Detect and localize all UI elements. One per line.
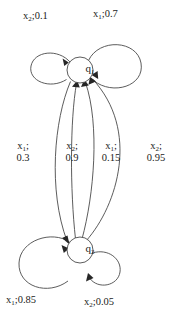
self-loop-q1-right-path (89, 45, 142, 88)
self-loop-label-q1-right: x1;0.7 (93, 8, 118, 19)
transition-label-q2-to-q1-x2-095-line1: x2; (139, 140, 173, 152)
self-loop-label-q1-right-probability: 0.7 (105, 8, 118, 19)
self-loop-label-q2-right-probability: 0.05 (96, 296, 114, 307)
transition-label-q2-to-q1-x1-015: x1; 0.15 (95, 140, 127, 164)
transition-label-q2-to-q1-x2-095: x2; 0.95 (139, 140, 173, 164)
transition-label-q2-to-q1-x1-015-subscript: 1 (110, 145, 114, 153)
transition-label-q2-to-q1-x2-09-probability: 0.9 (57, 152, 87, 164)
self-loop-label-q1-left: x2;0.1 (23, 10, 48, 21)
self-loop-q2-right-arrowhead (86, 273, 94, 282)
transition-label-q2-to-q1-x1-015-probability: 0.15 (95, 152, 127, 164)
self-loop-label-q1-right-subscript: 1 (98, 13, 102, 21)
state-node-q2[interactable] (67, 237, 93, 263)
transition-label-q1-to-q2-x1-separator: ; (26, 140, 29, 151)
transition-label-q2-to-q1-x2-095-separator: ; (159, 140, 162, 151)
self-loop-q2-left-path (19, 237, 70, 288)
transition-label-q1-to-q2-x1: x1; 0.3 (8, 140, 38, 164)
self-loop-q2-right-path (90, 252, 121, 285)
transition-label-q2-to-q1-x2-095-probability: 0.95 (139, 152, 173, 164)
self-loop-label-q2-left: x1;0.85 (6, 294, 36, 305)
transition-label-q2-to-q1-x1-015-separator: ; (114, 140, 117, 151)
self-loop-label-q2-right: x2;0.05 (84, 296, 114, 307)
self-loop-label-q1-left-subscript: 2 (28, 15, 32, 23)
transition-label-q2-to-q1-x2-09-line1: x2; (57, 140, 87, 152)
transition-label-q1-to-q2-x1-subscript: 1 (22, 145, 26, 153)
self-loop-label-q2-right-subscript: 2 (89, 301, 93, 309)
transition-label-q2-to-q1-x2-09-separator: ; (75, 140, 78, 151)
transition-label-q2-to-q1-x2-09: x2; 0.9 (57, 140, 87, 164)
transition-label-q2-to-q1-x2-095-subscript: 2 (155, 145, 159, 153)
state-node-q1[interactable] (67, 57, 93, 83)
transition-label-q1-to-q2-x1-probability: 0.3 (8, 152, 38, 164)
transition-label-q1-to-q2-x1-line1: x1; (8, 140, 38, 152)
self-loop-label-q1-left-probability: 0.1 (35, 10, 48, 21)
transition-label-q2-to-q1-x2-09-subscript: 2 (71, 145, 75, 153)
state-diagram: q1 q2 x2;0.1 x1;0.7 x1; 0.3 x2; 0.9 x1; … (0, 0, 180, 320)
self-loop-label-q2-left-subscript: 1 (11, 299, 15, 307)
transition-q1-to-q2-x1-arrowhead (62, 236, 70, 245)
self-loop-q1-left-path (31, 53, 71, 84)
self-loop-label-q2-left-probability: 0.85 (18, 294, 36, 305)
transition-label-q2-to-q1-x1-015-line1: x1; (95, 140, 127, 152)
